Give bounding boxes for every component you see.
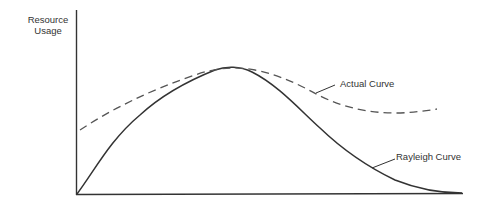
y-axis-label-line1: Resource <box>26 14 70 25</box>
x-axis <box>76 194 463 195</box>
rayleigh-curve-label: Rayleigh Curve <box>396 151 461 162</box>
rayleigh-curve-leader <box>372 159 395 168</box>
y-axis-label: Resource Usage <box>26 14 70 36</box>
actual-curve-leader <box>316 85 335 93</box>
y-axis-label-line2: Usage <box>26 25 70 36</box>
rayleigh-curve <box>77 67 462 194</box>
resource-usage-diagram: Resource Usage Actual Curve Rayleigh Cur… <box>0 0 488 207</box>
actual-curve-label: Actual Curve <box>340 78 394 89</box>
